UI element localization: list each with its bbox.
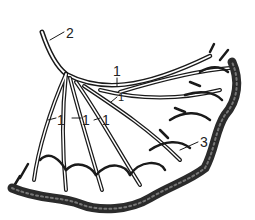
label-2: 2 — [66, 26, 74, 40]
vessel-diagram — [0, 0, 255, 220]
label-3: 3 — [200, 135, 208, 149]
label-1-mid: 1 — [82, 113, 90, 127]
label-1-mid2: 1 — [102, 113, 110, 127]
label-1-small-right: 1 — [118, 92, 124, 103]
label-1-top: 1 — [113, 64, 121, 78]
label-1-left: 1 — [57, 113, 65, 127]
